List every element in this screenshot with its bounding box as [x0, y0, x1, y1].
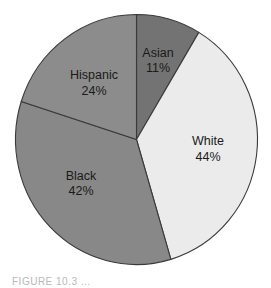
white-slice-value: 44% — [195, 150, 220, 164]
figure-caption: FIGURE 10.3 ... — [12, 276, 262, 288]
black-slice-value: 42% — [68, 184, 93, 198]
asian-slice-value: 11% — [146, 61, 170, 75]
hispanic-slice-label: Hispanic — [70, 68, 118, 82]
asian-slice-label: Asian — [142, 46, 173, 60]
hispanic-slice-value: 24% — [81, 84, 106, 98]
black-slice-label: Black — [66, 169, 97, 183]
white-slice-label: White — [192, 134, 224, 148]
